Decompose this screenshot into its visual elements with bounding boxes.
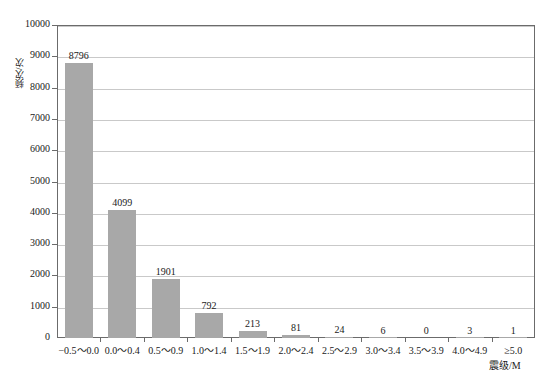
x-axis-tick-label: ≥5.0 xyxy=(492,344,535,357)
bar-group: 3 xyxy=(448,25,491,338)
x-axis-tick-mark xyxy=(492,338,493,342)
x-axis-tick-label: 2.0～2.4 xyxy=(274,344,317,357)
y-axis-tick-label: 3000 xyxy=(30,237,50,249)
bar xyxy=(108,210,136,338)
bar-group: 1901 xyxy=(144,25,187,338)
bar-value-label: 213 xyxy=(245,318,260,329)
x-axis-title-text: 震级/M xyxy=(489,360,521,371)
bar-group: 0 xyxy=(405,25,448,338)
x-axis-tick-label: 3.0～3.4 xyxy=(361,344,404,357)
x-axis-tick-label: 0.0～0.4 xyxy=(100,344,143,357)
bar-group: 4099 xyxy=(100,25,143,338)
bar-value-label: 0 xyxy=(424,325,429,336)
bar-value-label: 3 xyxy=(467,325,472,336)
y-axis-tick-label: 7000 xyxy=(30,112,50,124)
x-axis-tick-mark xyxy=(361,338,362,342)
bar-group: 1 xyxy=(492,25,535,338)
y-axis-tick-group: 0100020003000400050006000700080009000100… xyxy=(0,25,57,338)
x-axis-tick-mark xyxy=(231,338,232,342)
x-axis-tick-label: 1.0～1.4 xyxy=(187,344,230,357)
x-axis-tick-label: 3.5～3.9 xyxy=(405,344,448,357)
x-axis-tick-label: 4.0～4.9 xyxy=(448,344,491,357)
x-axis-tick-label-group: −0.5～0.00.0～0.40.5～0.91.0～1.41.5～1.92.0～… xyxy=(57,344,535,360)
x-axis-tick-mark xyxy=(144,338,145,342)
x-axis-tick-mark xyxy=(274,338,275,342)
bar-value-label: 792 xyxy=(202,300,217,311)
y-axis-tick-label: 8000 xyxy=(30,81,50,93)
bar-group: 24 xyxy=(318,25,361,338)
y-axis-tick-label: 1000 xyxy=(30,300,50,312)
bar-value-label: 1901 xyxy=(156,266,176,277)
bar-value-label: 6 xyxy=(380,325,385,336)
bar-value-label: 24 xyxy=(334,324,344,335)
bar-group: 8796 xyxy=(57,25,100,338)
bar-value-label: 1 xyxy=(511,325,516,336)
bar-group: 81 xyxy=(274,25,317,338)
x-axis-tick-mark xyxy=(100,338,101,342)
x-axis-tick-label: −0.5～0.0 xyxy=(57,344,100,357)
bar-value-label: 4099 xyxy=(112,197,132,208)
bar-value-label: 8796 xyxy=(69,50,89,61)
y-axis-tick-label: 10000 xyxy=(25,18,50,30)
x-axis-tick-mark xyxy=(318,338,319,342)
y-axis-tick-label: 6000 xyxy=(30,143,50,155)
bars-layer: 87964099190179221381246031 xyxy=(57,25,535,338)
bar xyxy=(65,63,93,338)
x-axis-title: 震级/M xyxy=(489,359,521,372)
y-axis-tick-label: 0 xyxy=(45,331,50,343)
bar-group: 6 xyxy=(361,25,404,338)
x-axis-tick-mark xyxy=(448,338,449,342)
y-axis-tick-label: 4000 xyxy=(30,206,50,218)
bar-group: 792 xyxy=(187,25,230,338)
bar-chart-figure: 频次/次 01000200030004000500060007000800090… xyxy=(0,0,553,383)
bar-group: 213 xyxy=(231,25,274,338)
x-axis-tick-label: 2.5～2.9 xyxy=(318,344,361,357)
x-axis-tick-label: 0.5～0.9 xyxy=(144,344,187,357)
x-axis-tick-group xyxy=(57,338,535,343)
x-axis-tick-mark xyxy=(187,338,188,342)
y-axis-tick-label: 9000 xyxy=(30,49,50,61)
y-axis-tick-label: 5000 xyxy=(30,175,50,187)
bar-value-label: 81 xyxy=(291,322,301,333)
bar xyxy=(152,279,180,339)
bar xyxy=(195,313,223,338)
bar xyxy=(239,331,267,338)
x-axis-tick-mark xyxy=(405,338,406,342)
x-axis-tick-label: 1.5～1.9 xyxy=(231,344,274,357)
y-axis-tick-label: 2000 xyxy=(30,268,50,280)
